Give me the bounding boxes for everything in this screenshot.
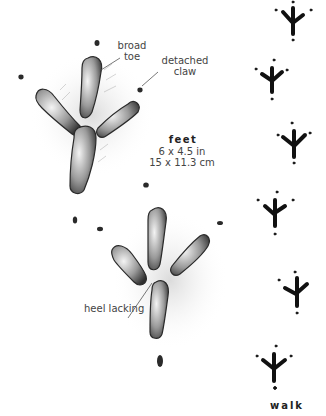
feet-size-inches: 6 x 4.5 in xyxy=(142,146,222,157)
detached-claw-label-line2: claw xyxy=(157,66,213,77)
detached-claw-label-line1: detached xyxy=(157,55,213,66)
lower-footprint xyxy=(112,208,228,350)
walk-gait-label: walk xyxy=(262,400,312,411)
track-illustration: broad toe detached claw feet 6 x 4.5 in … xyxy=(0,0,326,416)
trail-track xyxy=(257,191,294,235)
trail-track xyxy=(255,59,288,100)
detached-claw-label: detached claw xyxy=(157,55,213,77)
trail-track xyxy=(278,271,307,314)
upper-footprint xyxy=(30,53,154,193)
feet-size-cm: 15 x 11.3 cm xyxy=(142,157,222,168)
feet-heading: feet xyxy=(150,134,216,145)
broad-toe-label: broad toe xyxy=(112,40,152,62)
broad-toe-label-line1: broad xyxy=(112,40,152,51)
trail-track xyxy=(256,345,292,389)
trail-track xyxy=(277,122,311,164)
trail-track xyxy=(275,1,312,41)
feet-dimensions: 6 x 4.5 in 15 x 11.3 cm xyxy=(142,146,222,168)
broad-toe-label-line2: toe xyxy=(112,51,152,62)
walk-trail xyxy=(255,1,312,389)
heel-lacking-label: heel lacking xyxy=(84,303,164,314)
